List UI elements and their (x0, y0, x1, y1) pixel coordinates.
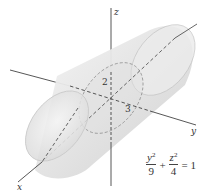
y-axis-label: y (190, 126, 197, 136)
cylinder-equation: y2 9 + z2 4 = 1 (146, 152, 196, 177)
equation-term-z: z2 4 (169, 152, 179, 177)
eq-z-exp: 2 (174, 151, 178, 159)
eq-y-exp: 2 (152, 151, 156, 159)
z-semi-axis-label: 2 (102, 77, 108, 87)
y-axis-right (150, 111, 196, 125)
equation-term-y: y2 9 (146, 152, 156, 177)
eq-y-den: 9 (148, 165, 154, 177)
z-axis-label: z (113, 7, 119, 17)
eq-rhs: 1 (191, 159, 197, 171)
x-axis-label: x (17, 182, 22, 192)
y-semi-axis-label: 3 (125, 104, 131, 114)
eq-equals: = (180, 159, 188, 171)
eq-z-den: 4 (171, 165, 177, 177)
eq-plus: + (158, 159, 166, 171)
